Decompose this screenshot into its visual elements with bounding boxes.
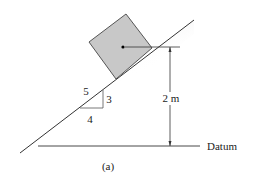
slope-hyp-label: 5 (83, 85, 89, 97)
slope-rise-label: 3 (106, 93, 112, 105)
arrow-down-icon (169, 141, 172, 146)
incline-diagram: 2 m Datum 5 3 4 (a) (0, 0, 254, 185)
height-label: 2 m (163, 92, 180, 104)
center-of-gravity-dot (121, 45, 124, 48)
datum-label: Datum (207, 140, 237, 152)
slope-run-label: 4 (87, 113, 93, 125)
figure-caption: (a) (102, 160, 115, 173)
